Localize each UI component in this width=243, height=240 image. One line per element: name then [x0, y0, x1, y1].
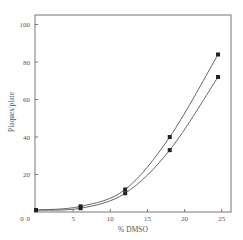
y-tick-label: 40 [23, 134, 31, 142]
data-point-marker [168, 148, 172, 152]
chart: 020406080100 0510152025 % DMSO Plaques/p… [0, 0, 243, 240]
x-tick-label: 5 [71, 215, 75, 223]
x-tick-label: 0 [20, 215, 24, 223]
data-point-marker [34, 208, 38, 212]
x-axis-label: % DMSO [118, 225, 148, 234]
data-point-marker [216, 75, 220, 79]
x-tick-label: 10 [107, 215, 115, 223]
y-tick-label: 0 [27, 215, 31, 223]
x-tick-label: 20 [181, 215, 189, 223]
data-point-marker [168, 135, 172, 139]
x-axis-ticks: 0510152025 [20, 209, 226, 223]
y-tick-label: 60 [23, 96, 31, 104]
data-point-marker [123, 188, 127, 192]
x-tick-label: 15 [144, 215, 152, 223]
curve-line [36, 55, 218, 211]
y-axis-label: Plaques/plate [7, 91, 16, 132]
y-tick-label: 80 [23, 59, 31, 67]
data-point-marker [123, 191, 127, 195]
data-point-marker [216, 53, 220, 57]
data-point-marker [79, 206, 83, 210]
y-tick-label: 100 [20, 21, 31, 29]
x-tick-label: 25 [218, 215, 226, 223]
data-curves [34, 53, 220, 213]
y-tick-label: 20 [23, 171, 31, 179]
